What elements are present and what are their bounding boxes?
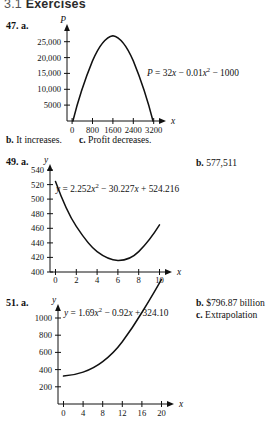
chart-49-ytick-5: 500 — [31, 194, 44, 204]
chart-49: 400 420 440 460 480 500 520 540 0 2 4 6 … — [0, 156, 200, 284]
chart-49-ytick-3: 460 — [31, 223, 44, 233]
chart-51-curve — [64, 279, 162, 376]
answer-47-b-text: It increases. — [16, 134, 62, 145]
answer-51-b-text: $796.87 billion — [206, 297, 265, 308]
chart-47-ytick-2: 15,000 — [37, 68, 61, 78]
answer-49-b: b. 577,511 — [196, 157, 237, 168]
chart-49-xlabel: x — [176, 267, 182, 277]
page-title: 3.1 Exercises — [4, 0, 86, 11]
chart-51-ylabel: y — [51, 295, 57, 305]
chart-51-equation: y = 1.69x2 − 0.92x + 324.10 — [64, 306, 168, 318]
chart-47-curve — [73, 36, 153, 121]
chart-51-ytick-0: 200 — [39, 382, 52, 392]
chart-51-y-arrow — [55, 304, 61, 311]
chart-49-ytick-6: 520 — [31, 180, 44, 190]
chart-47-ytick-4: 25,000 — [37, 37, 61, 47]
answer-47-b: b. It increases. — [6, 134, 62, 145]
chart-49-xtick-0: 0 — [53, 275, 57, 285]
chart-47-ytick-1: 10,000 — [37, 84, 61, 94]
chart-49-xtick-2: 4 — [95, 275, 100, 285]
chart-47-ylabel: P — [59, 15, 66, 25]
chart-49-ytick-0: 400 — [31, 267, 44, 277]
chart-47-ytick-0: 5000 — [44, 100, 61, 110]
section-number: 3.1 — [4, 0, 22, 11]
chart-49-ytick-2: 440 — [31, 238, 44, 248]
chart-47-x-arrow — [159, 118, 166, 124]
answer-key-page: 3.1 Exercises 47. a. 5000 10,000 15,000 … — [0, 0, 278, 427]
chart-47-equation: P = 32x − 0.01x2 − 1000 — [147, 66, 239, 78]
chart-51-xtick-2: 8 — [101, 408, 105, 418]
chart-47-xlabel: x — [170, 116, 176, 126]
chart-51-xtick-1: 4 — [81, 408, 86, 418]
answer-47-c: c. Profit decreases. — [79, 134, 151, 145]
answer-51-c-text: Extrapolation — [205, 309, 257, 320]
chart-51-xlabel: x — [178, 399, 184, 409]
chart-47-ytick-3: 20,000 — [37, 53, 61, 63]
chart-51-xtick-5: 20 — [157, 408, 166, 418]
chart-51-xtick-4: 16 — [138, 408, 147, 418]
chart-47-xtick-0: 0 — [70, 125, 74, 135]
chart-51-ytick-4: 1000 — [35, 313, 52, 323]
answer-51-c: c. Extrapolation — [196, 309, 257, 320]
chart-49-ylabel: y — [43, 155, 49, 165]
answer-47-b-letter: b. — [6, 134, 14, 145]
chart-49-xtick-1: 2 — [74, 275, 78, 285]
chart-51-xtick-0: 0 — [61, 408, 65, 418]
chart-47-y-arrow — [64, 24, 70, 31]
chart-51-ytick-3: 800 — [39, 330, 52, 340]
chart-49-xtick-3: 6 — [116, 275, 121, 285]
chart-51-x-arrow — [167, 401, 174, 407]
answer-47-c-text: Profit decreases. — [88, 134, 151, 145]
chart-49-ytick-7: 540 — [31, 165, 44, 175]
answer-49-b-text: 577,511 — [206, 157, 237, 168]
chart-51-ytick-2: 600 — [39, 347, 52, 357]
answer-47-c-letter: c. — [79, 134, 86, 145]
chart-49-ytick-4: 480 — [31, 209, 44, 219]
chart-49-x-arrow — [165, 269, 172, 275]
chart-51-ytick-1: 400 — [39, 365, 52, 375]
chart-49-ytick-1: 420 — [31, 252, 44, 262]
section-title: Exercises — [26, 0, 86, 11]
chart-49-equation: y = 2.252x2 − 30.227x + 524.216 — [56, 182, 179, 194]
chart-51-xtick-3: 12 — [118, 408, 127, 418]
answer-51-b: b. $796.87 billion — [196, 297, 265, 308]
chart-49-xtick-4: 8 — [137, 275, 141, 285]
